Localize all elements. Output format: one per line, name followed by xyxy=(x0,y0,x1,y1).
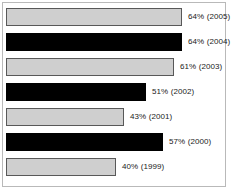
bar-label-2005: 64% (2005) xyxy=(188,13,230,21)
bar-row: 43% (2001) xyxy=(6,108,172,126)
bar-label-2003: 61% (2003) xyxy=(180,63,222,71)
bar-row: 64% (2004) xyxy=(6,33,230,51)
bar-row: 64% (2005) xyxy=(6,8,230,26)
bar-2005 xyxy=(6,8,182,26)
bar-1999 xyxy=(6,158,116,176)
bar-row: 61% (2003) xyxy=(6,58,222,76)
bar-label-2002: 51% (2002) xyxy=(152,88,194,96)
bar-2003 xyxy=(6,58,174,76)
bar-label-2004: 64% (2004) xyxy=(188,38,230,46)
bar-row: 51% (2002) xyxy=(6,83,194,101)
bar-row: 40% (1999) xyxy=(6,158,164,176)
bar-2000 xyxy=(6,133,163,151)
bar-2002 xyxy=(6,83,146,101)
bar-label-2000: 57% (2000) xyxy=(169,138,211,146)
bar-2001 xyxy=(6,108,124,126)
bar-label-1999: 40% (1999) xyxy=(122,163,164,171)
bar-row: 57% (2000) xyxy=(6,133,211,151)
bar-chart-figure: 64% (2005)64% (2004)61% (2003)51% (2002)… xyxy=(0,0,235,193)
bar-2004 xyxy=(6,33,182,51)
bar-label-2001: 43% (2001) xyxy=(130,113,172,121)
chart-plot-frame: 64% (2005)64% (2004)61% (2003)51% (2002)… xyxy=(2,2,226,187)
